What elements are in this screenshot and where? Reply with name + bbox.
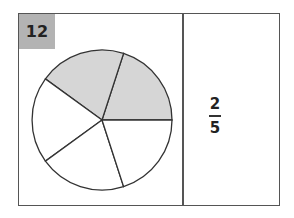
pie-chart: [0, 0, 294, 218]
fraction-bar: [209, 115, 221, 117]
fraction-numerator: 2: [210, 97, 220, 112]
fraction-denominator: 5: [210, 121, 220, 136]
fraction-answer: 2 5: [202, 97, 228, 136]
